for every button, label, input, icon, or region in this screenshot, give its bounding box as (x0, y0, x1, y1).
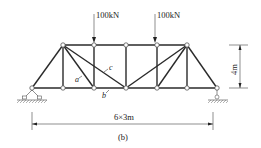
load-label-1: 100kN (96, 10, 119, 20)
span-label: 6×3m (114, 112, 134, 122)
figure-caption: (b) (118, 132, 128, 142)
vertical-members (63, 45, 187, 88)
pin-support-left (17, 90, 47, 103)
roller-support-right (208, 90, 228, 103)
height-label: 4m (229, 64, 239, 75)
truss-diagram: 100kN 100kN a b c 4m 6×3m (b) (0, 0, 261, 148)
web-diagonals (63, 45, 187, 88)
end-diagonals (32, 45, 217, 88)
member-label-c: c (109, 63, 113, 72)
member-label-b: b (102, 91, 106, 100)
load-label-2: 100kN (157, 10, 180, 20)
member-label-a: a (75, 75, 79, 84)
